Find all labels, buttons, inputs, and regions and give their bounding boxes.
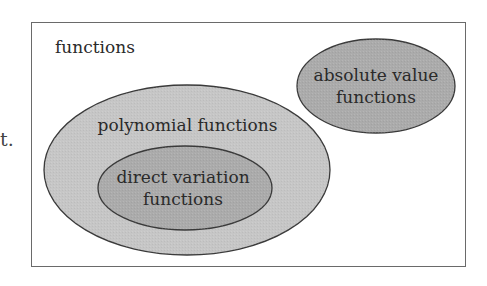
direct-variation-label: direct variation functions xyxy=(103,166,263,210)
absolute-value-label: absolute value functions xyxy=(306,64,446,108)
absolute-value-label-line1: absolute value xyxy=(306,64,446,86)
polynomial-label: polynomial functions xyxy=(80,114,295,136)
direct-variation-label-line2: functions xyxy=(103,188,263,210)
direct-variation-label-line1: direct variation xyxy=(103,166,263,188)
absolute-value-label-line2: functions xyxy=(306,86,446,108)
universe-label: functions xyxy=(55,36,135,58)
